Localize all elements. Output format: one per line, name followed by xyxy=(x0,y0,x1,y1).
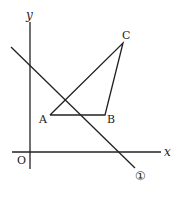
geometry-diagram: y x O A B C ① xyxy=(0,0,181,199)
origin-label: O xyxy=(17,154,26,167)
x-axis-label: x xyxy=(164,145,171,159)
point-a-label: A xyxy=(38,113,48,126)
y-axis-label: y xyxy=(25,8,33,22)
point-c-label: C xyxy=(122,29,130,42)
point-b-label: B xyxy=(107,113,115,126)
triangle-abc xyxy=(50,43,123,115)
line-1-label: ① xyxy=(135,169,146,183)
